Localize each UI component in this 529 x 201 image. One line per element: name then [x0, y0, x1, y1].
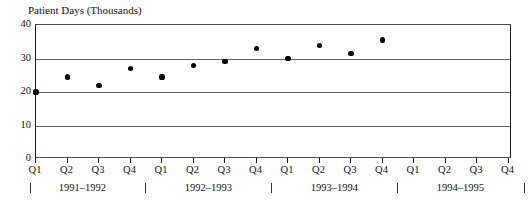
gridline	[36, 92, 510, 93]
year-separator	[30, 183, 31, 193]
year-label: 1993–1994	[289, 182, 379, 194]
year-label: 1994–1995	[415, 182, 505, 194]
y-tick-label: 10	[5, 119, 31, 130]
x-quarter-label: Q4	[488, 164, 528, 176]
x-tick	[256, 158, 257, 163]
x-tick	[413, 158, 414, 163]
data-point	[96, 83, 101, 88]
x-tick	[35, 158, 36, 163]
year-label: 1991–1992	[37, 182, 127, 194]
data-point	[128, 66, 133, 71]
x-tick	[476, 158, 477, 163]
x-axis-year-band: 1991–19921992–19931993–19941994–1995	[0, 182, 529, 198]
gridline	[36, 126, 510, 127]
data-point	[191, 63, 196, 68]
data-point	[348, 51, 353, 56]
data-point	[380, 37, 385, 42]
x-tick	[350, 158, 351, 163]
year-separator	[271, 183, 272, 193]
data-point	[159, 74, 164, 79]
x-tick	[224, 158, 225, 163]
x-tick	[67, 158, 68, 163]
year-separator	[397, 183, 398, 193]
data-point	[254, 46, 259, 51]
data-point	[222, 59, 227, 64]
plot-area	[35, 24, 511, 158]
x-tick	[382, 158, 383, 163]
x-tick	[130, 158, 131, 163]
data-point	[65, 74, 70, 79]
data-point	[33, 89, 38, 94]
x-tick	[98, 158, 99, 163]
y-tick-label: 40	[5, 19, 31, 30]
year-separator	[524, 183, 525, 193]
x-tick	[445, 158, 446, 163]
chart-figure: Patient Days (Thousands) 010203040 Q1Q2Q…	[0, 0, 529, 201]
x-tick	[193, 158, 194, 163]
y-tick-label: 20	[5, 86, 31, 97]
x-tick	[161, 158, 162, 163]
data-point	[317, 43, 322, 48]
chart-title: Patient Days (Thousands)	[28, 4, 142, 17]
y-axis: 010203040	[0, 24, 31, 158]
gridline	[36, 59, 510, 60]
x-tick	[508, 158, 509, 163]
x-axis-quarter-labels: Q1Q2Q3Q4Q1Q2Q3Q4Q1Q2Q3Q4Q1Q2Q3Q4	[0, 164, 529, 178]
year-separator	[145, 183, 146, 193]
x-tick	[319, 158, 320, 163]
data-point	[285, 56, 290, 61]
year-label: 1992–1993	[163, 182, 253, 194]
y-tick-label: 30	[5, 52, 31, 63]
x-tick	[287, 158, 288, 163]
